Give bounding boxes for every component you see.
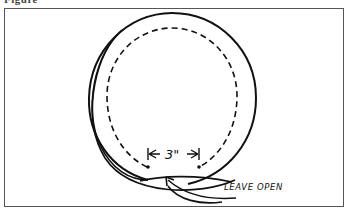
dimension-label: 3" xyxy=(165,147,179,162)
left-seam-dot xyxy=(146,165,150,169)
gap-arc xyxy=(140,177,232,182)
leave-open-label: LEAVE OPEN xyxy=(224,182,283,192)
right-seam-dot xyxy=(197,165,201,169)
dim-arrow-right-icon xyxy=(187,150,198,158)
outer-strand-left xyxy=(93,30,148,180)
dim-arrow-left-icon xyxy=(149,150,160,158)
outer-strand-left-2 xyxy=(92,34,235,190)
